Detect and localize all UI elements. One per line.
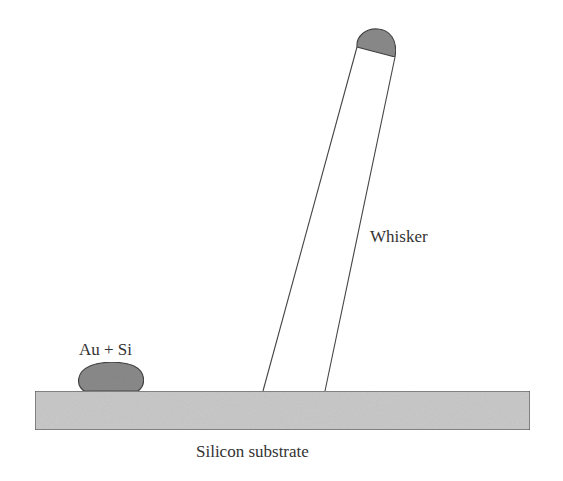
silicon-substrate xyxy=(35,391,530,430)
whisker-body xyxy=(263,47,395,391)
substrate-label: Silicon substrate xyxy=(196,443,309,460)
whisker-growth-diagram xyxy=(0,0,563,481)
droplet-label: Au + Si xyxy=(79,341,132,358)
whisker-label: Whisker xyxy=(370,228,428,245)
au-si-droplet xyxy=(79,362,144,391)
